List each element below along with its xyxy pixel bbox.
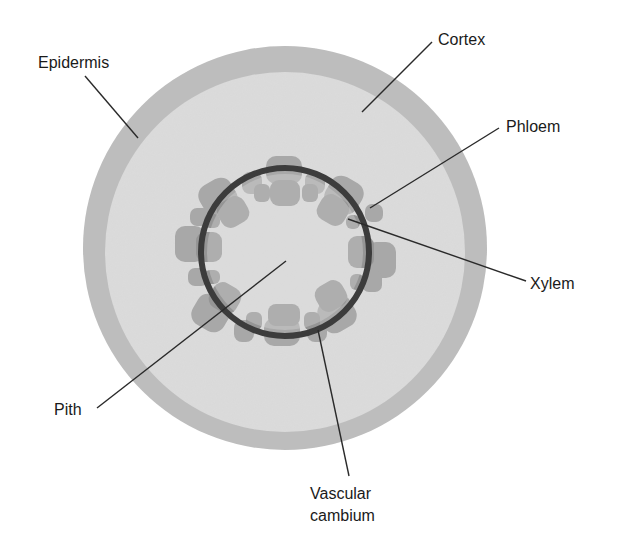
label-xylem: Xylem (530, 275, 574, 292)
label-epidermis: Epidermis (38, 54, 109, 71)
epidermis-leader-line (85, 76, 138, 138)
label-vascular-cambium-line1: Vascular (310, 485, 372, 502)
stem-cross-section-diagram: Epidermis Cortex Phloem Xylem Pith Vascu… (0, 0, 625, 546)
label-pith: Pith (54, 401, 82, 418)
label-vascular-cambium-line2: cambium (310, 507, 375, 524)
label-phloem: Phloem (506, 118, 560, 135)
label-cortex: Cortex (438, 31, 485, 48)
pith-region (207, 174, 363, 330)
